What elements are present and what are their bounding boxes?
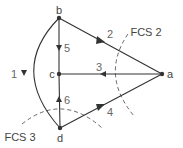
edge-3-label: 3 <box>96 62 102 73</box>
edge-5-label: 5 <box>64 43 70 54</box>
node-d <box>58 126 62 130</box>
node-b-label: b <box>56 5 62 16</box>
fcs2-cutset-arc <box>115 34 134 116</box>
node-c-label: c <box>49 69 55 80</box>
node-a <box>160 72 164 76</box>
edge-5-arrow-icon <box>56 45 62 51</box>
edge-1 <box>34 18 60 128</box>
edge-6-arrow-icon <box>56 96 62 102</box>
node-c <box>57 72 61 76</box>
edge-1-label: 1 <box>11 69 17 80</box>
node-a-label: a <box>167 69 173 80</box>
edge-6-label: 6 <box>64 95 70 106</box>
edge-2-label: 2 <box>107 29 113 40</box>
edge-4-label: 4 <box>107 107 113 118</box>
graph-canvas <box>0 0 183 148</box>
node-b <box>57 16 61 20</box>
edge-4-arrow-icon <box>96 104 105 111</box>
node-d-label: d <box>57 133 63 144</box>
edge-1-arrow-icon <box>21 70 27 76</box>
fcs3-label: FCS 3 <box>4 132 35 143</box>
edge-4 <box>60 74 162 128</box>
graph-diagram: a b c d 1 2 3 4 5 6 FCS 2 FCS 3 <box>0 0 183 148</box>
fcs2-label: FCS 2 <box>130 27 161 38</box>
